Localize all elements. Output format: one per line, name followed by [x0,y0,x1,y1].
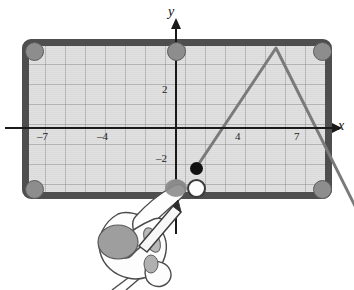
screen-texture [29,46,325,192]
cursor-open-circle[interactable] [187,179,206,198]
x-tick-label-7: 7 [294,130,300,142]
screw-top-left-icon [25,42,44,61]
x-tick-label-neg7: –7 [37,130,48,142]
graph-screen[interactable] [29,46,325,192]
x-tick-label-neg4: –4 [97,130,108,142]
screw-top-right-icon [313,42,332,61]
y-tick-label-2: 2 [162,83,168,95]
x-axis [5,127,333,129]
screw-bottom-center-icon [167,180,186,199]
y-tick-label-neg2: –2 [156,152,167,164]
x-tick-label-4: 4 [235,130,241,142]
screw-bottom-right-icon [313,180,332,199]
closed-point-marker [190,162,203,175]
graphing-tablet-screenshot: x y –7 –4 4 7 2 –2 [0,0,354,290]
x-axis-label: x [338,118,344,134]
y-axis-label: y [168,4,174,20]
screw-bottom-left-icon [25,180,44,199]
screw-top-center-icon [167,42,186,61]
